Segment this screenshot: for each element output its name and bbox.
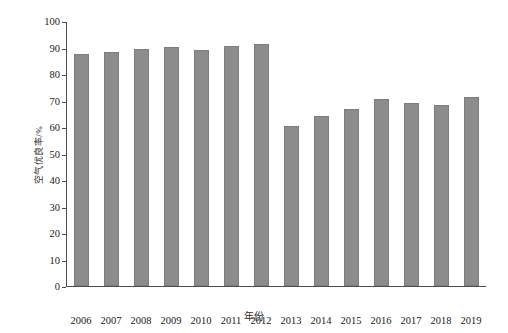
x-axis-title: 年份	[0, 308, 508, 323]
bar-slot	[186, 22, 216, 286]
y-axis-title: 空气优良率/%	[32, 95, 45, 215]
y-axis-tick-label: 40	[50, 174, 61, 187]
bar-slot	[426, 22, 456, 286]
bar[interactable]	[194, 50, 209, 286]
y-axis-tick-label: 90	[50, 42, 61, 55]
bar-slot	[306, 22, 336, 286]
bar-chart-figure: 空气优良率/% 0102030405060708090100 200620072…	[0, 0, 508, 333]
bar-slot	[366, 22, 396, 286]
bar[interactable]	[74, 54, 89, 286]
bar[interactable]	[344, 109, 359, 286]
bar[interactable]	[254, 44, 269, 286]
y-axis-tick-label: 60	[50, 121, 61, 134]
bar-slot	[246, 22, 276, 286]
bar[interactable]	[164, 47, 179, 286]
bar[interactable]	[224, 46, 239, 286]
y-axis-tick-label: 70	[50, 95, 61, 108]
y-axis-tick-label: 0	[55, 280, 60, 293]
bar-slot	[216, 22, 246, 286]
bar-slot	[126, 22, 156, 286]
y-axis-tick-label: 30	[50, 201, 61, 214]
bar[interactable]	[464, 97, 479, 286]
x-axis-line	[66, 286, 486, 287]
y-axis-tick-label: 20	[50, 227, 61, 240]
bar[interactable]	[134, 49, 149, 286]
bar-slot	[156, 22, 186, 286]
y-axis-tick-label: 100	[44, 15, 60, 28]
y-axis-tick-mark	[62, 287, 66, 288]
bar-slot	[66, 22, 96, 286]
plot-area: 0102030405060708090100 20062007200820092…	[66, 22, 486, 287]
bar[interactable]	[314, 116, 329, 286]
y-axis-tick-label: 80	[50, 68, 61, 81]
y-axis-tick-label: 50	[50, 148, 61, 161]
bar-slot	[96, 22, 126, 286]
bar[interactable]	[404, 103, 419, 286]
bar[interactable]	[104, 52, 119, 286]
bar-slot	[276, 22, 306, 286]
bar[interactable]	[284, 126, 299, 286]
y-axis-tick-label: 10	[50, 254, 61, 267]
bar-slot	[336, 22, 366, 286]
bar-slot	[456, 22, 486, 286]
bar[interactable]	[434, 105, 449, 286]
bar[interactable]	[374, 99, 389, 286]
bar-slot	[396, 22, 426, 286]
